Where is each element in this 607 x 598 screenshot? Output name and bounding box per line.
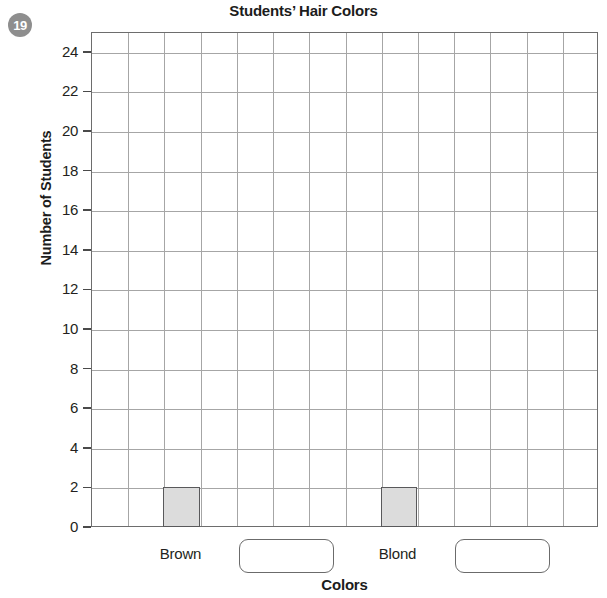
chart-plot-area — [91, 32, 598, 527]
y-tick-label: 2 — [34, 478, 78, 495]
y-tick-label: 6 — [34, 399, 78, 416]
vertical-gridline — [563, 33, 564, 526]
horizontal-gridline — [92, 172, 597, 173]
y-tick-label: 22 — [34, 82, 78, 99]
chart-title: Students’ Hair Colors — [0, 2, 607, 19]
y-tick-mark — [83, 91, 91, 93]
y-tick-label: 16 — [34, 201, 78, 218]
horizontal-gridline — [92, 409, 597, 410]
vertical-gridline — [418, 33, 419, 526]
y-tick-mark — [83, 487, 91, 489]
horizontal-gridline — [92, 290, 597, 291]
vertical-gridline — [309, 33, 310, 526]
horizontal-gridline — [92, 92, 597, 93]
y-tick-mark — [83, 368, 91, 370]
vertical-gridline — [273, 33, 274, 526]
y-tick-mark — [83, 130, 91, 132]
y-tick-label: 0 — [34, 518, 78, 535]
answer-box-1[interactable] — [239, 539, 334, 573]
answer-box-2[interactable] — [455, 539, 550, 573]
y-tick-mark — [83, 170, 91, 172]
vertical-gridline — [527, 33, 528, 526]
y-tick-label: 12 — [34, 280, 78, 297]
category-label-brown: Brown — [128, 545, 233, 562]
x-axis-title: Colors — [91, 576, 598, 593]
y-tick-mark — [83, 447, 91, 449]
y-tick-mark — [83, 526, 91, 528]
vertical-gridline — [164, 33, 165, 526]
vertical-gridline — [454, 33, 455, 526]
vertical-gridline — [346, 33, 347, 526]
y-tick-mark — [83, 407, 91, 409]
horizontal-gridline — [92, 132, 597, 133]
bar-blond — [381, 487, 417, 527]
y-tick-label: 4 — [34, 439, 78, 456]
y-tick-mark — [83, 289, 91, 291]
horizontal-gridline — [92, 370, 597, 371]
horizontal-gridline — [92, 251, 597, 252]
vertical-gridline — [490, 33, 491, 526]
vertical-gridline — [201, 33, 202, 526]
vertical-gridline — [128, 33, 129, 526]
y-tick-mark — [83, 51, 91, 53]
y-tick-label: 8 — [34, 360, 78, 377]
y-tick-mark — [83, 249, 91, 251]
y-tick-mark — [83, 209, 91, 211]
y-tick-label: 24 — [34, 43, 78, 60]
vertical-gridline — [382, 33, 383, 526]
category-label-blond: Blond — [345, 545, 450, 562]
horizontal-gridline — [92, 211, 597, 212]
y-tick-label: 18 — [34, 162, 78, 179]
horizontal-gridline — [92, 449, 597, 450]
horizontal-gridline — [92, 53, 597, 54]
bar-brown — [163, 487, 199, 527]
y-tick-label: 14 — [34, 241, 78, 258]
y-tick-label: 10 — [34, 320, 78, 337]
y-tick-mark — [83, 328, 91, 330]
y-tick-label: 20 — [34, 122, 78, 139]
horizontal-gridline — [92, 330, 597, 331]
vertical-gridline — [237, 33, 238, 526]
